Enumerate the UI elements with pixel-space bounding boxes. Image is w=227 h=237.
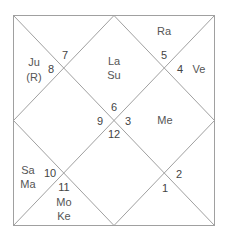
sign-11: 11 <box>58 181 69 194</box>
sign-9: 9 <box>97 115 103 128</box>
sign-10: 10 <box>44 167 56 180</box>
planet-mercury: Me <box>157 114 172 127</box>
planet-venus: Ve <box>193 63 206 76</box>
sign-6: 6 <box>111 101 117 114</box>
sign-7: 7 <box>62 49 68 62</box>
planet-saturn: Sa <box>21 164 34 177</box>
chart-lines <box>0 0 227 237</box>
planet-sun: Su <box>107 69 120 82</box>
sign-4: 4 <box>177 63 183 76</box>
planet-jupiter: Ju <box>28 56 40 69</box>
sign-1: 1 <box>162 182 168 195</box>
sign-8: 8 <box>48 63 54 76</box>
sign-12: 12 <box>108 128 120 141</box>
sign-5: 5 <box>161 49 167 62</box>
retrograde-marker: (R) <box>26 71 41 84</box>
planet-rahu: Ra <box>157 25 171 38</box>
sign-3: 3 <box>125 115 131 128</box>
planet-moon: Mo <box>56 196 71 209</box>
sign-2: 2 <box>176 168 182 181</box>
planet-mars: Ma <box>20 178 35 191</box>
planet-ketu: Ke <box>57 210 70 223</box>
planet-lagna: La <box>108 55 120 68</box>
